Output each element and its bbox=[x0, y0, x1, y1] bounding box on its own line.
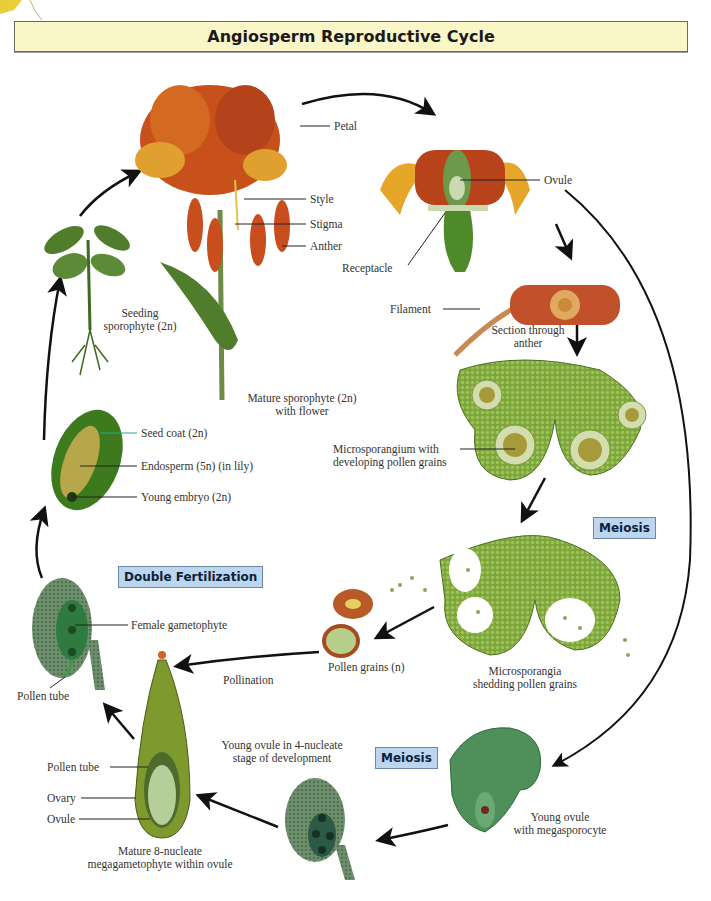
label-anther: Anther bbox=[310, 240, 342, 253]
label-filament: Filament bbox=[390, 303, 431, 316]
double-fertilization-box: Double Fertilization bbox=[118, 566, 263, 588]
four-nucleate-ovule-icon bbox=[285, 778, 355, 880]
label-receptacle: Receptacle bbox=[342, 262, 392, 275]
label-pollen-grains: Pollen grains (n) bbox=[328, 661, 405, 674]
label-endosperm: Endosperm (5n) (in lily) bbox=[141, 460, 253, 473]
label-seed-coat: Seed coat (2n) bbox=[141, 427, 207, 440]
corner-leaf-icon bbox=[0, 0, 22, 14]
label-ovary: Ovary bbox=[47, 792, 76, 805]
microsporangium-icon bbox=[457, 360, 646, 480]
flower-section-icon bbox=[380, 150, 530, 272]
label-young-embryo: Young embryo (2n) bbox=[141, 491, 231, 504]
meiosis-mega-box: Meiosis bbox=[375, 747, 438, 769]
label-pollination: Pollination bbox=[223, 674, 273, 687]
label-megasporocyte: Young ovule with megasporocyte bbox=[505, 811, 615, 837]
label-mature-8-nucleate: Mature 8-nucleate megagametophyte within… bbox=[75, 845, 245, 871]
pollen-grains-icon bbox=[322, 589, 373, 658]
label-pollen-tube-ovary: Pollen tube bbox=[47, 761, 99, 774]
label-young-4-nucleate: Young ovule in 4-nucleate stage of devel… bbox=[212, 739, 352, 765]
label-ovule-flower: Ovule bbox=[544, 174, 572, 187]
meiosis-micro-box: Meiosis bbox=[593, 517, 656, 539]
label-ovule-ovary: Ovule bbox=[47, 813, 75, 826]
label-pollen-tube-top: Pollen tube bbox=[17, 690, 69, 703]
label-microsporangium: Microsporangium with developing pollen g… bbox=[333, 443, 447, 469]
fertilized-ovule-icon bbox=[32, 578, 105, 690]
label-style: Style bbox=[310, 193, 334, 206]
microsporangia-shedding-icon bbox=[390, 536, 630, 658]
label-microsporangia-shedding: Microsporangia shedding pollen grains bbox=[460, 665, 590, 691]
seedling-icon bbox=[40, 220, 134, 375]
ovary-icon bbox=[135, 651, 190, 838]
seed-icon bbox=[38, 400, 136, 520]
label-section-anther: Section through anther bbox=[478, 324, 578, 350]
label-female-gametophyte: Female gametophyte bbox=[131, 619, 227, 632]
label-petal: Petal bbox=[334, 120, 357, 133]
label-stigma: Stigma bbox=[310, 218, 343, 231]
label-seedling: Seeding sporophyte (2n) bbox=[95, 307, 185, 333]
lily-flower-icon bbox=[135, 85, 290, 400]
label-mature-sporophyte: Mature sporophyte (2n) with flower bbox=[236, 392, 368, 418]
